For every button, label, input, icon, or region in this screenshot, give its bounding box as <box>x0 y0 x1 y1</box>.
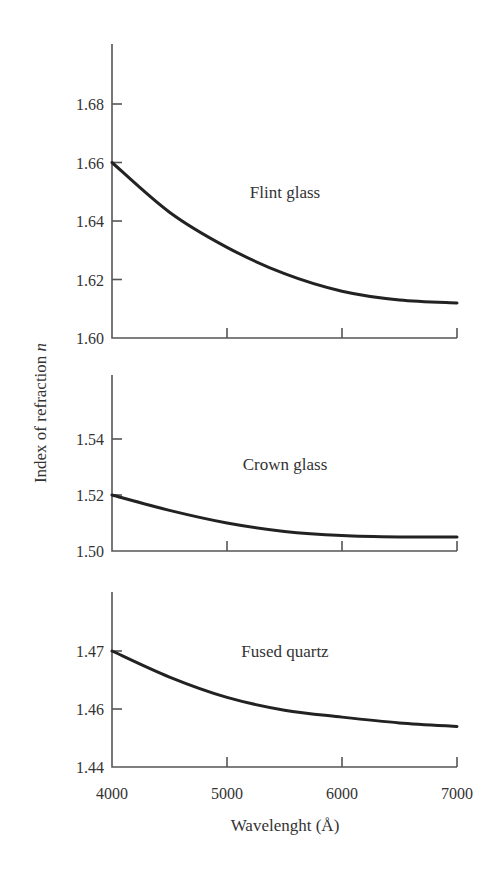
curve-crown-glass <box>112 495 457 537</box>
x-tick-label: 6000 <box>326 785 358 802</box>
y-tick-label: 1.60 <box>76 330 104 347</box>
y-tick-label: 1.54 <box>76 431 104 448</box>
curve-fused-quartz <box>112 651 457 726</box>
panel-label-crown-glass: Crown glass <box>243 455 328 474</box>
x-tick-labels: 4000500060007000 <box>96 785 473 802</box>
y-tick-label: 1.62 <box>76 272 104 289</box>
y-tick-label: 1.52 <box>76 487 104 504</box>
y-tick-label: 1.68 <box>76 96 104 113</box>
axes-fused-quartz <box>112 592 457 767</box>
chart-panels: 1.601.621.641.661.68Flint glass1.501.521… <box>76 44 457 776</box>
y-tick-label: 1.50 <box>76 543 104 560</box>
y-tick-label: 1.44 <box>76 759 104 776</box>
panel-label-fused-quartz: Fused quartz <box>241 642 329 661</box>
panel-crown-glass: 1.501.521.54Crown glass <box>76 375 457 560</box>
x-tick-label: 7000 <box>441 785 473 802</box>
y-axis-title: Index of refraction n <box>31 343 50 483</box>
x-axis-title: Wavelenght (Å) <box>231 816 340 835</box>
x-tick-label: 4000 <box>96 785 128 802</box>
y-tick-label: 1.66 <box>76 155 104 172</box>
refraction-index-chart: 1.601.621.641.661.68Flint glass1.501.521… <box>0 0 503 883</box>
y-axis-title-text: Index of refraction <box>31 351 50 483</box>
y-tick-label: 1.64 <box>76 213 104 230</box>
x-tick-label: 5000 <box>211 785 243 802</box>
panel-label-flint-glass: Flint glass <box>250 183 320 202</box>
panel-fused-quartz: 1.441.461.47Fused quartz <box>76 592 457 776</box>
y-tick-label: 1.46 <box>76 701 104 718</box>
y-tick-label: 1.47 <box>76 643 104 660</box>
panel-flint-glass: 1.601.621.641.661.68Flint glass <box>76 44 457 347</box>
y-axis-title-symbol: n <box>31 343 50 352</box>
